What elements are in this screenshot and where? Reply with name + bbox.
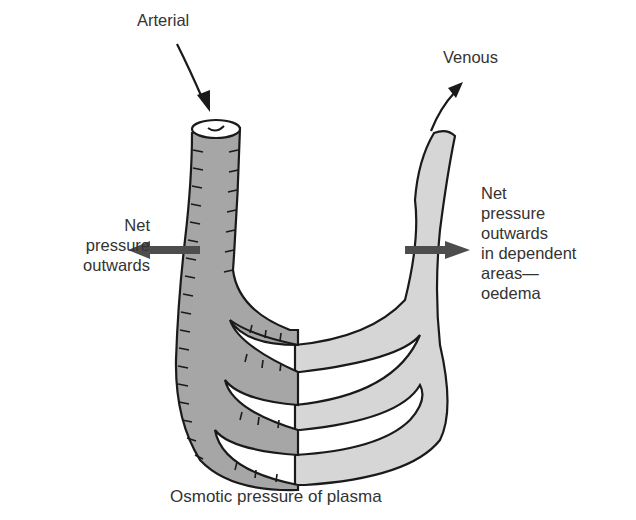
venous-text: Venous — [443, 47, 498, 67]
diagram-caption: Osmotic pressure of plasma — [170, 487, 382, 507]
label-line: outwards — [481, 223, 576, 243]
arterial-vessel — [176, 120, 298, 490]
label-line: outwards — [60, 255, 150, 275]
arrow-down-icon — [177, 44, 210, 112]
label-net-pressure-left: Net pressure outwards — [60, 215, 150, 275]
label-line: pressure — [481, 203, 576, 223]
label-venous: Venous — [443, 47, 498, 67]
venous-vessel — [295, 131, 455, 485]
label-line: pressure — [60, 235, 150, 255]
arterial-text: Arterial — [137, 10, 189, 30]
label-line: in dependent — [481, 243, 576, 263]
arrow-up-right-icon — [431, 82, 463, 131]
label-line: areas— — [481, 263, 576, 283]
label-line: oedema — [481, 283, 576, 303]
label-arterial: Arterial — [137, 10, 189, 30]
label-net-pressure-right: Net pressure outwards in dependent areas… — [481, 183, 576, 303]
caption-text: Osmotic pressure of plasma — [170, 487, 382, 507]
label-line: Net — [60, 215, 150, 235]
label-line: Net — [481, 183, 576, 203]
